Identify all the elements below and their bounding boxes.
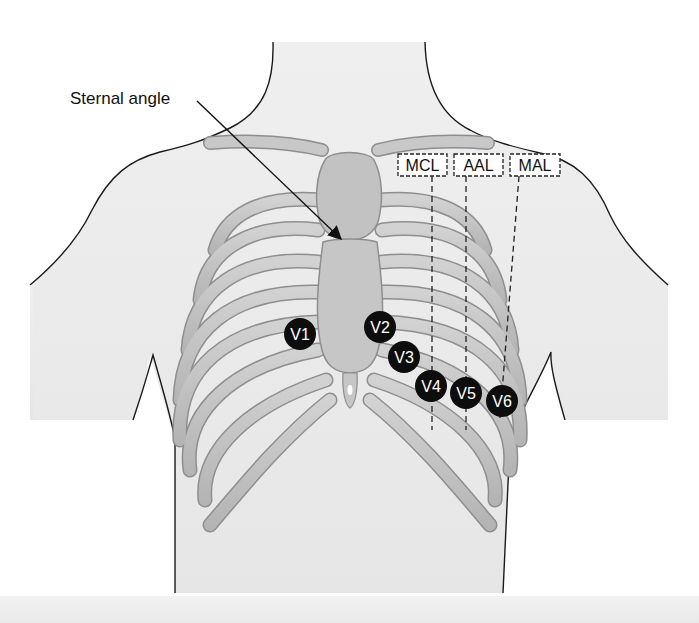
svg-text:V4: V4 (421, 378, 441, 395)
lead-v5: V5 (450, 377, 482, 409)
svg-text:V6: V6 (492, 393, 512, 410)
ecg-lead-placement-diagram: Sternal angle MCL AAL MAL (0, 0, 699, 623)
svg-text:V5: V5 (456, 385, 476, 402)
mcl-label: MCL (406, 157, 440, 174)
lead-v2: V2 (364, 311, 396, 343)
lead-v4: V4 (415, 370, 447, 402)
lead-v3: V3 (388, 341, 420, 373)
lead-v1: V1 (284, 318, 316, 350)
svg-text:V1: V1 (290, 326, 310, 343)
bottom-gray-band (0, 596, 699, 623)
sternal-angle-label: Sternal angle (70, 89, 170, 108)
svg-text:V2: V2 (370, 319, 390, 336)
svg-text:V3: V3 (394, 349, 414, 366)
mal-label: MAL (519, 157, 552, 174)
aal-label: AAL (463, 157, 493, 174)
lead-v6: V6 (486, 385, 518, 417)
